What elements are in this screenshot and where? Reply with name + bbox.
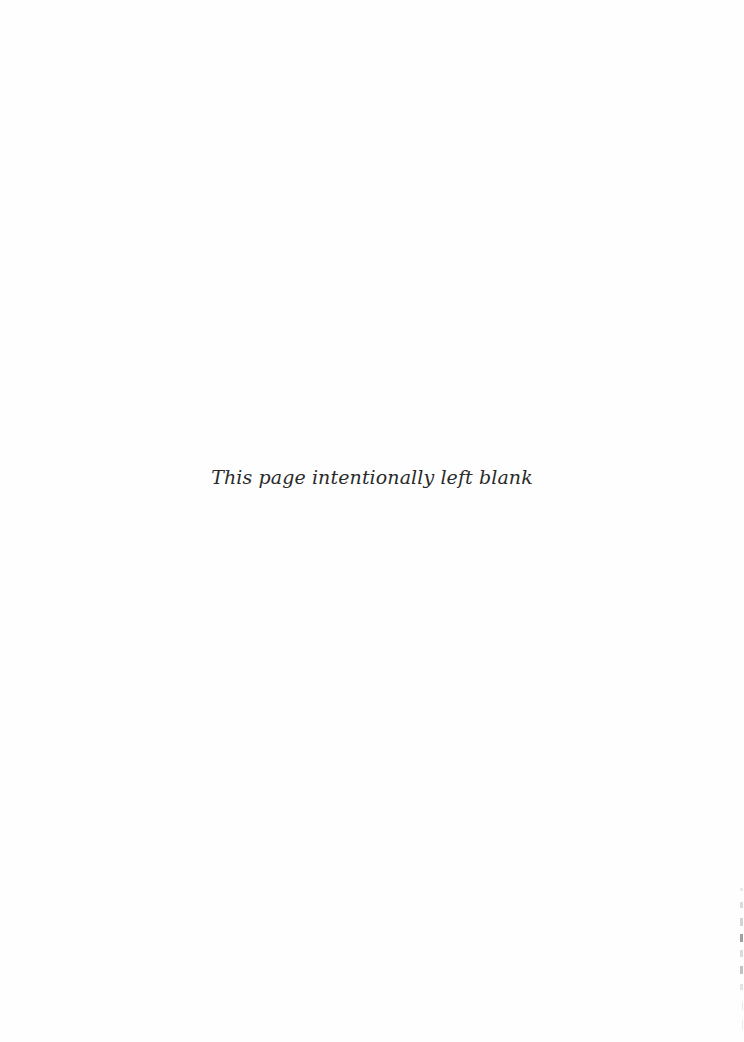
blank-page-notice: This page intentionally left blank	[0, 466, 744, 488]
blank-page: This page intentionally left blank	[0, 0, 744, 1042]
scan-edge-artifact	[738, 880, 744, 1042]
